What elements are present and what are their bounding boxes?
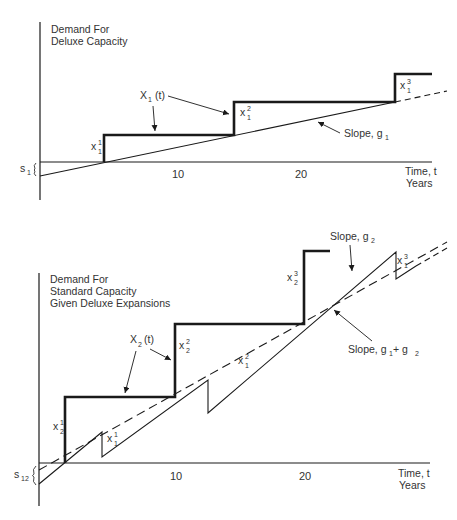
bottom-standard-step-label-1: x 1 2: [53, 419, 64, 435]
svg-text:x: x: [53, 420, 59, 432]
svg-text:1: 1: [98, 148, 102, 155]
svg-text:1: 1: [27, 169, 31, 176]
top-trend-line-g1: [40, 102, 395, 176]
svg-text:+ g: + g: [393, 343, 408, 355]
svg-text:2: 2: [138, 341, 142, 348]
svg-text:x: x: [238, 354, 244, 366]
bottom-chart: Demand For Standard Capacity Given Delux…: [14, 230, 447, 506]
bottom-tick-10: 10: [170, 470, 182, 482]
svg-text:1: 1: [407, 87, 411, 94]
svg-text:1: 1: [385, 134, 389, 141]
svg-text:s: s: [14, 468, 19, 480]
bottom-slope-g2-label: Slope, g 2: [330, 230, 375, 244]
top-slope-arrow: [318, 122, 340, 133]
svg-text:1: 1: [114, 431, 118, 438]
svg-text:(t): (t): [144, 333, 154, 345]
top-curve-label: X 1 (t): [140, 89, 165, 103]
svg-text:x: x: [179, 339, 185, 351]
svg-text:Slope, g: Slope, g: [344, 127, 383, 139]
top-x-label-line1: Time, t: [405, 165, 437, 177]
top-curve-arrow-1: [153, 106, 155, 131]
top-step-label-3: x 3 1: [400, 78, 411, 94]
bottom-tick-20: 20: [299, 470, 311, 482]
svg-text:2: 2: [186, 347, 190, 354]
svg-text:2: 2: [186, 338, 190, 345]
svg-text:3: 3: [407, 78, 411, 85]
top-trend-line-g1-dashed: [395, 91, 447, 102]
svg-text:x: x: [107, 432, 113, 444]
svg-text:Slope, g: Slope, g: [348, 343, 387, 355]
bottom-standard-step-label-2: x 2 2: [179, 338, 190, 354]
top-x-label-line2: Years: [406, 177, 432, 189]
svg-text:X: X: [130, 333, 137, 345]
svg-text:3: 3: [294, 270, 298, 277]
top-tick-20: 20: [295, 168, 307, 180]
bottom-curve-label: X 2 (t): [130, 333, 154, 348]
bottom-standard-step-label-3: x 3 2: [287, 270, 298, 286]
top-y-label-line2: Deluxe Capacity: [51, 35, 128, 47]
top-tick-10: 10: [172, 168, 184, 180]
top-step-label-1: x 1 1: [91, 139, 102, 155]
top-step-label-2: x 2 1: [240, 105, 251, 121]
top-curve-arrow-2: [168, 96, 229, 114]
bottom-curve-arrow-1: [125, 351, 136, 393]
bottom-slope-g2-arrow: [350, 245, 352, 271]
bottom-x-label-line2: Years: [399, 479, 425, 491]
svg-text:x: x: [397, 254, 403, 266]
bottom-deluxe-step-label-1: x 1 1: [107, 431, 118, 447]
bottom-y-label-line2: Standard Capacity: [50, 285, 137, 297]
svg-text:Slope, g: Slope, g: [330, 230, 369, 242]
svg-text:x: x: [287, 271, 293, 283]
top-capacity-staircase-x1: [104, 74, 432, 162]
svg-text:1: 1: [114, 440, 118, 447]
top-chart: Demand For Deluxe Capacity x 1 1 x 2 1 x…: [20, 22, 447, 200]
svg-text:1: 1: [245, 362, 249, 369]
svg-text:s: s: [20, 162, 25, 174]
svg-text:2: 2: [247, 105, 251, 112]
bottom-slope-g1g2-label: Slope, g 1 + g 2: [348, 343, 419, 357]
svg-text:2: 2: [294, 279, 298, 286]
svg-text:1: 1: [247, 114, 251, 121]
bottom-deluxe-step-label-2: x 2 1: [238, 353, 249, 369]
bottom-y-label-line3: Given Deluxe Expansions: [50, 297, 170, 309]
svg-text:2: 2: [60, 428, 64, 435]
top-offset-brace: [34, 163, 36, 176]
capacity-expansion-diagram: Demand For Deluxe Capacity x 1 1 x 2 1 x…: [0, 0, 457, 520]
bottom-x-label-line1: Time, t: [398, 467, 430, 479]
svg-text:x: x: [91, 140, 97, 152]
bottom-offset-label: s 12: [14, 468, 29, 482]
top-slope-label: Slope, g 1: [344, 127, 389, 141]
bottom-y-label-line1: Demand For: [50, 273, 109, 285]
svg-text:1: 1: [404, 262, 408, 269]
svg-text:x: x: [240, 106, 246, 118]
bottom-curve-arrow-2: [150, 349, 171, 360]
svg-text:1: 1: [60, 419, 64, 426]
bottom-slope-g1g2-arrow: [334, 310, 372, 341]
bottom-offset-brace: [33, 466, 37, 485]
svg-text:1: 1: [98, 139, 102, 146]
svg-text:3: 3: [404, 253, 408, 260]
svg-text:1: 1: [148, 96, 152, 103]
top-y-label-line1: Demand For: [51, 23, 110, 35]
svg-text:2: 2: [415, 350, 419, 357]
top-offset-label: s 1: [20, 162, 31, 176]
svg-text:(t): (t): [155, 89, 165, 101]
svg-text:X: X: [140, 89, 147, 101]
svg-text:12: 12: [21, 475, 29, 482]
bottom-deluxe-step-label-3: x 3 1: [397, 253, 408, 269]
svg-text:2: 2: [245, 353, 249, 360]
svg-text:x: x: [400, 79, 406, 91]
svg-text:2: 2: [371, 237, 375, 244]
